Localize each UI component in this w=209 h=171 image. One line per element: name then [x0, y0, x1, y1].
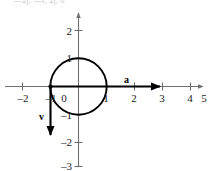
y-tick-label-2: 2: [58, 25, 72, 37]
x-tick-label-3: 3: [155, 92, 169, 104]
x-tick-label--2: –2: [14, 92, 32, 104]
vector-diagram-figure: —2j, —i, 2j, 0: [0, 0, 209, 171]
vector-v-label: v: [39, 111, 44, 122]
origin-label: 0: [57, 92, 71, 104]
y-tick-label--3: –3: [52, 160, 72, 171]
coordinate-plane-svg: [0, 0, 209, 171]
x-tick-label-2: 2: [127, 92, 141, 104]
vector-a-label: a: [124, 74, 129, 85]
x-tick-label-4: 4: [183, 92, 197, 104]
y-tick-label-1: 1: [58, 52, 72, 64]
tangency-point-dot: [48, 84, 52, 88]
y-axis: [75, 13, 83, 167]
y-tick-label--1: –1: [52, 109, 72, 121]
y-tick-label--2: –2: [52, 136, 72, 148]
x-tick-label-1: 1: [99, 92, 113, 104]
x-tick-label-5: 5: [197, 92, 209, 104]
